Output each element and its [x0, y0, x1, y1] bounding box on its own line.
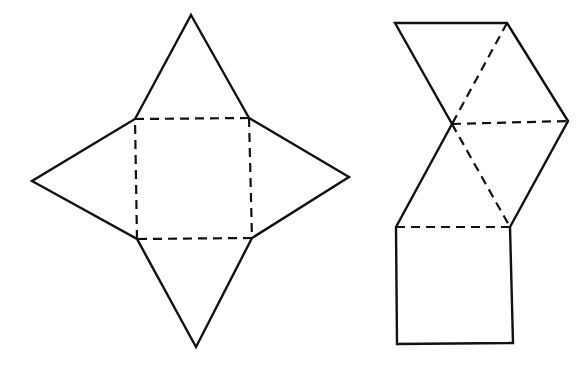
star-net — [32, 15, 349, 347]
fold-line-bottom — [137, 238, 252, 239]
fold-line-top — [135, 118, 249, 119]
fold-line-left — [135, 119, 137, 239]
pyramid-nets-figure — [0, 0, 580, 369]
figure-canvas — [0, 0, 580, 369]
zigzag-net — [395, 23, 568, 344]
fold-line-right — [249, 118, 252, 238]
star-net-outline — [32, 15, 349, 347]
zigzag-net-outline — [395, 23, 568, 344]
fold-line-diagonal-upper — [452, 23, 507, 124]
fold-line-middle — [452, 121, 568, 124]
fold-line-diagonal-lower — [452, 124, 510, 227]
